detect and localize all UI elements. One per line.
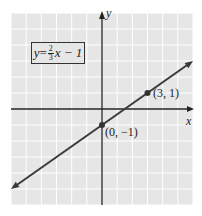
equation-equals: = [39, 45, 46, 61]
point-3-1 [145, 90, 151, 96]
x-axis-label: x [186, 114, 191, 129]
point-label-0-neg1: (0, −1) [105, 125, 138, 140]
coordinate-plane [0, 0, 202, 216]
y-axis-label: y [106, 6, 111, 21]
equation-fraction: 23 [48, 45, 54, 62]
equation-rest: x − 1 [55, 45, 83, 61]
equation-box: y = 23x − 1 [31, 42, 85, 64]
fraction-denominator: 3 [49, 54, 53, 62]
point-label-3-1: (3, 1) [153, 86, 179, 101]
